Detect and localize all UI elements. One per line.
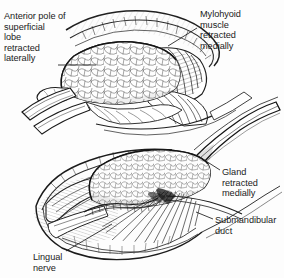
label-anterior-pole: Anterior pole of superficial lobe retrac… [4,11,66,64]
label-mylohyoid-muscle: Mylohyoid muscle retracted medially [200,9,241,51]
label-lingual-nerve: Lingual nerve [33,252,62,273]
label-submandibular-duct: Submandibular duct [215,215,276,236]
anatomy-figure: Anterior pole of superficial lobe retrac… [0,0,284,278]
label-gland-retracted: Gland retracted medially [222,167,258,199]
